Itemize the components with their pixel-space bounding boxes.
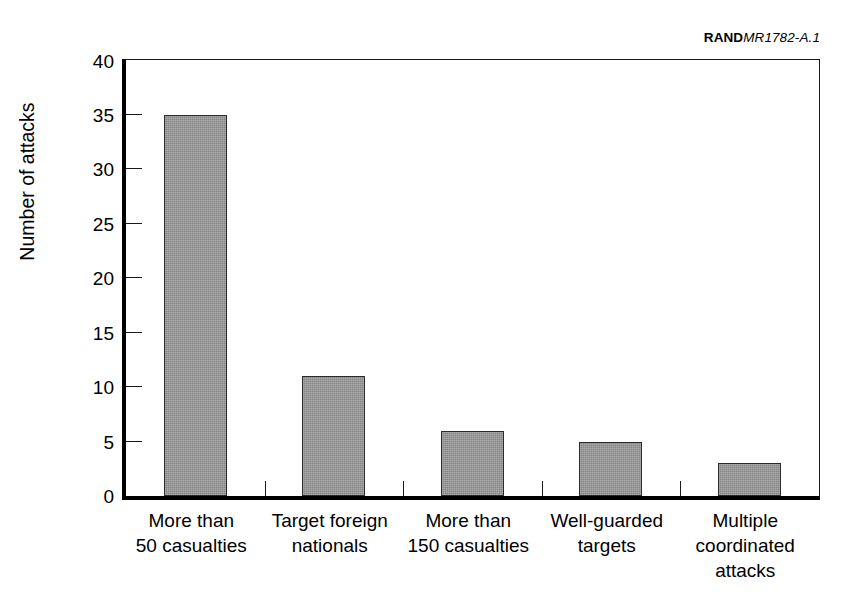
x-axis-category-label-line: attacks xyxy=(659,558,831,583)
y-axis-tick-label: 0 xyxy=(54,487,114,506)
x-axis-category-label-line: coordinated xyxy=(659,533,831,558)
y-axis-tick-label: 10 xyxy=(54,378,114,397)
x-axis-tick xyxy=(680,481,681,496)
figure-bar-chart: RANDMR1782-A.1 0510152025303540 Number o… xyxy=(0,0,861,615)
y-axis-tick-label: 5 xyxy=(54,432,114,451)
x-axis-category-label-line: Multiple xyxy=(659,508,831,533)
bar xyxy=(441,431,504,496)
y-axis-tick xyxy=(126,332,142,333)
y-axis-tick-label: 25 xyxy=(54,214,114,233)
rand-document-code: RANDMR1782-A.1 xyxy=(704,30,820,45)
plot-area xyxy=(122,59,820,500)
x-axis-category-labels: More than50 casualtiesTarget foreignnati… xyxy=(122,508,820,608)
y-axis-tick-label: 35 xyxy=(54,105,114,124)
bar xyxy=(302,376,365,496)
x-axis-tick xyxy=(403,481,404,496)
bar xyxy=(579,442,642,496)
y-axis-tick xyxy=(126,386,142,387)
x-axis-tick xyxy=(542,481,543,496)
y-axis-title: Number of attacks xyxy=(16,72,39,292)
y-axis-tick xyxy=(126,168,142,169)
y-axis-tick-label: 40 xyxy=(54,51,114,70)
document-number-text: MR1782-A.1 xyxy=(743,30,820,45)
y-axis-tick xyxy=(126,223,142,224)
y-axis-tick-label: 15 xyxy=(54,323,114,342)
x-axis-category-label: Multiplecoordinatedattacks xyxy=(659,508,831,583)
y-axis-tick-labels: 0510152025303540 xyxy=(52,59,114,500)
y-axis-tick-label: 30 xyxy=(54,160,114,179)
rand-logo-text: RAND xyxy=(704,30,743,45)
y-axis-tick xyxy=(126,441,142,442)
y-axis-tick xyxy=(126,114,142,115)
bar xyxy=(718,463,781,496)
y-axis-tick-label: 20 xyxy=(54,269,114,288)
plot-inner xyxy=(126,60,819,496)
x-axis-tick xyxy=(265,481,266,496)
bar xyxy=(164,115,227,496)
y-axis-tick xyxy=(126,277,142,278)
